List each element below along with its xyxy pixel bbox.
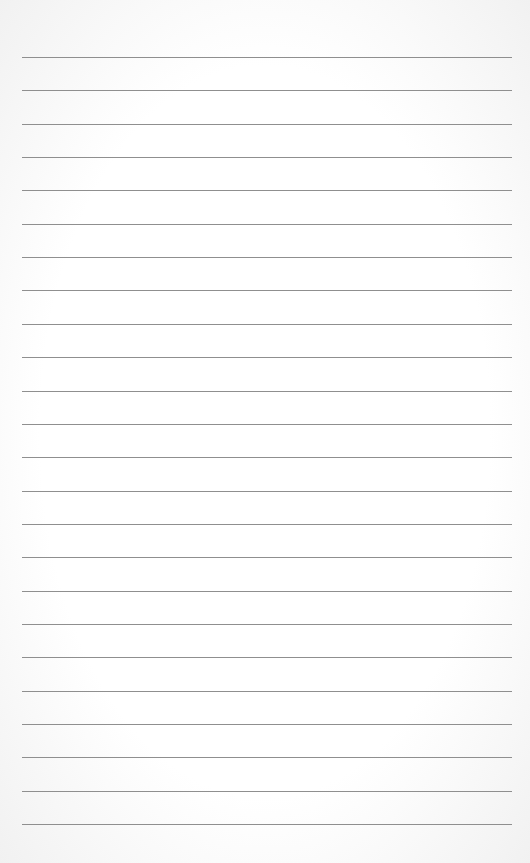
ruled-line (22, 357, 512, 358)
ruled-line (22, 591, 512, 592)
ruled-line (22, 57, 512, 58)
ruled-line (22, 190, 512, 191)
ruled-line (22, 657, 512, 658)
ruled-line (22, 290, 512, 291)
ruled-line (22, 824, 512, 825)
ruled-line (22, 791, 512, 792)
ruled-line (22, 391, 512, 392)
ruled-line (22, 424, 512, 425)
ruled-line (22, 524, 512, 525)
ruled-line (22, 224, 512, 225)
ruled-line (22, 557, 512, 558)
ruled-line (22, 324, 512, 325)
ruled-line (22, 157, 512, 158)
ruled-line (22, 124, 512, 125)
ruled-line (22, 491, 512, 492)
ruled-line (22, 691, 512, 692)
lined-paper-sheet (0, 0, 530, 863)
ruled-line (22, 724, 512, 725)
ruled-line (22, 90, 512, 91)
ruled-line (22, 257, 512, 258)
ruled-line (22, 624, 512, 625)
ruled-line (22, 757, 512, 758)
ruled-line (22, 457, 512, 458)
